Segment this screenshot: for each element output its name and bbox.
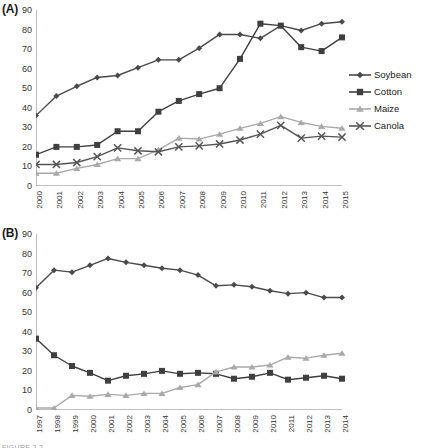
data-point-diamond bbox=[94, 74, 100, 80]
data-point-square bbox=[217, 85, 223, 91]
x-axis-tick-label: 2009 bbox=[220, 191, 228, 209]
data-point-diamond bbox=[195, 272, 201, 278]
panel-b-plot-area: 0102030405060708090199719981999200020012… bbox=[36, 230, 346, 410]
data-point-diamond bbox=[339, 19, 345, 25]
x-axis-tick-label: 2014 bbox=[342, 415, 350, 433]
x-axis-tick-label: 2004 bbox=[118, 191, 126, 209]
legend-item-soybean[interactable]: Soybean bbox=[348, 66, 412, 83]
x-axis-tick-label: 2003 bbox=[144, 415, 152, 433]
data-point-square bbox=[278, 23, 284, 29]
data-point-square bbox=[87, 370, 93, 376]
data-point-square bbox=[267, 370, 273, 376]
data-point-diamond bbox=[298, 28, 304, 34]
legend-item-canola[interactable]: Canola bbox=[348, 117, 412, 134]
x-axis-tick-label: 2013 bbox=[324, 415, 332, 433]
x-axis-tick-label: 2000 bbox=[90, 415, 98, 433]
data-point-square bbox=[257, 21, 263, 27]
x-axis-tick-label: 2010 bbox=[240, 191, 248, 209]
panel-a-chart-svg bbox=[36, 6, 346, 186]
panel-b: (B) 010203040506070809019971998199920002… bbox=[0, 222, 424, 448]
data-point-square bbox=[94, 142, 100, 148]
data-point-diamond bbox=[267, 288, 273, 294]
series-line bbox=[36, 117, 342, 174]
x-axis-tick-label: 2007 bbox=[216, 415, 224, 433]
data-point-square bbox=[69, 363, 75, 369]
data-point-square bbox=[285, 377, 291, 383]
series-maize bbox=[36, 114, 346, 176]
x-axis-tick-label: 2002 bbox=[77, 191, 85, 209]
data-point-diamond bbox=[74, 83, 80, 89]
data-point-diamond bbox=[141, 262, 147, 268]
data-point-square bbox=[249, 374, 255, 380]
x-axis-tick-label: 1997 bbox=[36, 415, 44, 433]
legend-label: Canola bbox=[374, 120, 404, 131]
x-axis-tick-label: 2012 bbox=[306, 415, 314, 433]
x-axis-tick-label: 2011 bbox=[260, 191, 268, 208]
data-point-square bbox=[53, 144, 59, 150]
data-point-diamond bbox=[249, 284, 255, 290]
data-point-diamond bbox=[285, 291, 291, 297]
y-axis-tick-label: 10 bbox=[22, 162, 32, 171]
data-point-diamond bbox=[105, 255, 111, 261]
panel-a-label: (A) bbox=[2, 2, 18, 16]
y-axis-tick-label: 70 bbox=[22, 269, 32, 278]
data-point-diamond bbox=[176, 57, 182, 63]
y-axis-tick-label: 40 bbox=[22, 327, 32, 336]
legend-marker-cross-icon bbox=[348, 121, 372, 131]
x-axis-tick-label: 2013 bbox=[301, 191, 309, 209]
data-point-square bbox=[105, 378, 111, 384]
x-axis-tick-label: 2014 bbox=[322, 191, 330, 209]
data-point-square bbox=[357, 88, 363, 94]
data-point-square bbox=[36, 152, 39, 158]
y-axis-tick-label: 80 bbox=[22, 25, 32, 34]
y-axis-tick-label: 50 bbox=[22, 84, 32, 93]
data-point-square bbox=[339, 34, 345, 40]
y-axis-tick-label: 30 bbox=[22, 347, 32, 356]
x-axis-tick-label: 2004 bbox=[162, 415, 170, 433]
data-point-square bbox=[231, 376, 237, 382]
y-axis-tick-label: 0 bbox=[27, 182, 32, 191]
data-point-diamond bbox=[357, 71, 363, 77]
x-axis-tick-label: 2006 bbox=[198, 415, 206, 433]
data-point-square bbox=[176, 98, 182, 104]
y-axis-tick-label: 90 bbox=[22, 229, 32, 238]
y-axis-tick-label: 60 bbox=[22, 288, 32, 297]
data-point-cross bbox=[277, 122, 284, 129]
panel-a-plot-area: 0102030405060708090200020012002200320042… bbox=[36, 6, 346, 186]
data-point-square bbox=[159, 368, 165, 374]
y-axis-tick-label: 10 bbox=[22, 386, 32, 395]
data-point-square bbox=[196, 91, 202, 97]
legend-item-maize[interactable]: Maize bbox=[348, 100, 412, 117]
data-point-square bbox=[123, 373, 129, 379]
series-line bbox=[36, 125, 342, 164]
data-point-square bbox=[339, 376, 345, 382]
x-axis-tick-label: 2012 bbox=[281, 191, 289, 209]
panel-b-chart-svg bbox=[36, 230, 346, 410]
data-point-diamond bbox=[159, 265, 165, 271]
x-axis-tick-label: 2005 bbox=[180, 415, 188, 433]
figure-caption: FIGURE 2.2 bbox=[2, 444, 43, 448]
series-bt bbox=[36, 336, 345, 384]
data-point-triangle bbox=[277, 114, 284, 120]
data-point-square bbox=[74, 144, 80, 150]
panel-a: (A) 010203040506070809020002001200220032… bbox=[0, 0, 424, 224]
data-point-square bbox=[155, 109, 161, 115]
y-axis-tick-label: 30 bbox=[22, 123, 32, 132]
x-axis-tick-label: 2006 bbox=[158, 191, 166, 209]
x-axis-tick-label: 2003 bbox=[97, 191, 105, 209]
data-point-diamond bbox=[237, 31, 243, 37]
legend-label: Maize bbox=[374, 103, 399, 114]
legend-item-cotton[interactable]: Cotton bbox=[348, 83, 412, 100]
series-line bbox=[36, 22, 342, 116]
data-point-square bbox=[321, 373, 327, 379]
series-ht bbox=[36, 255, 345, 300]
data-point-square bbox=[115, 128, 121, 134]
data-point-square bbox=[135, 128, 141, 134]
panel-a-legend: SoybeanCottonMaizeCanola bbox=[348, 66, 412, 134]
data-point-diamond bbox=[319, 21, 325, 27]
data-point-diamond bbox=[339, 295, 345, 301]
legend-marker-diamond-icon bbox=[348, 70, 372, 80]
y-axis-tick-label: 60 bbox=[22, 64, 32, 73]
y-axis-tick-label: 50 bbox=[22, 308, 32, 317]
y-axis-tick-label: 0 bbox=[27, 406, 32, 415]
